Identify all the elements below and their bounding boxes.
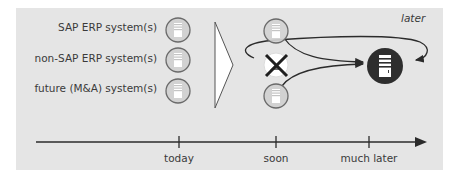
server-icon-non-sap-erp — [166, 48, 190, 72]
arrow-sap-to-target — [284, 38, 363, 62]
tick-label-soon: soon — [264, 152, 289, 164]
server-icon-sap-erp — [166, 18, 190, 42]
server-icon-target — [367, 48, 403, 84]
server-icon-future-ma — [166, 79, 190, 103]
timeline-arrowhead — [415, 137, 427, 147]
removed-system-non-sap — [264, 53, 288, 77]
annotation-later: later — [401, 12, 425, 24]
tick-label-much-later: much later — [341, 152, 398, 164]
server-icon-future-ma-soon — [264, 84, 288, 108]
tick-label-today: today — [164, 152, 194, 164]
arrow-future-to-target — [282, 64, 363, 86]
chevron-right-icon — [215, 22, 233, 108]
server-icon-sap-erp-soon — [264, 19, 288, 43]
